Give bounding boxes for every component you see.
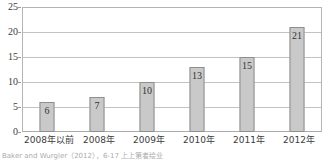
bar-value-label: 15 bbox=[241, 61, 254, 71]
bar-slot-3: 13 bbox=[172, 7, 222, 132]
bar-value-label: 21 bbox=[291, 31, 304, 41]
x-tick-label-2009: 2009年 bbox=[133, 134, 165, 146]
y-tick-mark-5 bbox=[17, 107, 21, 108]
bar-slot-4: 15 bbox=[222, 7, 272, 132]
figure-caption: Baker and Wurgler（2012），6-17 上上第者绘业 bbox=[2, 152, 325, 161]
bar-2010[interactable]: 13 bbox=[190, 67, 205, 132]
y-tick-mark-0 bbox=[17, 132, 21, 133]
bar-value-label: 6 bbox=[41, 106, 54, 116]
bar-slot-1: 7 bbox=[72, 7, 122, 132]
y-tick-mark-20 bbox=[17, 32, 21, 33]
bar-slot-5: 21 bbox=[272, 7, 322, 132]
bar-value-label: 10 bbox=[141, 86, 154, 96]
x-tick-label-2010: 2010年 bbox=[183, 134, 215, 146]
bar-value-label: 7 bbox=[91, 101, 104, 111]
bar-2008-before[interactable]: 6 bbox=[40, 102, 55, 132]
x-axis: 2008年以前 2008年 2009年 2010年 2011年 2012年 bbox=[22, 134, 322, 150]
bars-layer: 6 7 10 13 15 21 bbox=[22, 7, 322, 132]
bar-slot-0: 6 bbox=[22, 7, 72, 132]
bar-2009[interactable]: 10 bbox=[140, 82, 155, 132]
y-tick-mark-25 bbox=[17, 7, 21, 8]
x-tick-label-2012: 2012年 bbox=[283, 134, 315, 146]
x-tick-label-2008: 2008年 bbox=[83, 134, 115, 146]
bar-chart-figure: 25 20 15 10 5 0 6 7 bbox=[0, 0, 327, 163]
x-tick-label-2011: 2011年 bbox=[233, 134, 265, 146]
y-tick-mark-10 bbox=[17, 82, 21, 83]
y-tick-mark-15 bbox=[17, 57, 21, 58]
bar-2012[interactable]: 21 bbox=[290, 27, 305, 132]
bar-2008[interactable]: 7 bbox=[90, 97, 105, 132]
bar-slot-2: 10 bbox=[122, 7, 172, 132]
bar-2011[interactable]: 15 bbox=[240, 57, 255, 132]
x-tick-label-2008-before: 2008年以前 bbox=[24, 134, 74, 146]
y-axis: 25 20 15 10 5 0 bbox=[0, 0, 22, 139]
bar-value-label: 13 bbox=[191, 71, 204, 81]
